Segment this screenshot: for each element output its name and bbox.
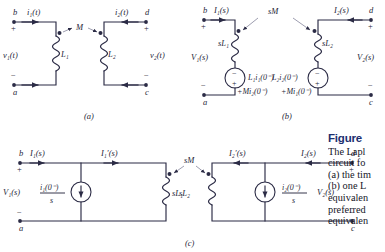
circuit-a-left-top-wire	[14, 22, 56, 36]
circuit-a-sign-minus-left: −	[11, 70, 16, 80]
circuit-c-inductor-sl1	[163, 177, 170, 205]
circuit-b-source-right-label-line2: +Mi₁(0⁻)	[281, 87, 312, 96]
circuit-a-inductor-l2	[101, 36, 108, 71]
circuit-c-label-v1: V₁(s)	[3, 187, 20, 197]
circuit-c-source-left-numerator: i₁(0⁻)	[40, 183, 59, 192]
circuit-c-label-i2: I₂(s)	[300, 148, 316, 158]
caption-line-5: equivalen	[328, 192, 385, 204]
circuit-c-source-right-numerator: i₂(0⁻)	[282, 183, 301, 192]
circuit-c-sign-minus-left: −	[17, 207, 22, 217]
circuit-b-sign-minus-left: −	[201, 80, 206, 90]
circuit-a-label-l2: L₂	[107, 49, 116, 59]
circuit-b-label-v1: V₁(s)	[191, 52, 208, 62]
circuit-c-inductor-sl2	[209, 177, 216, 205]
circuit-b-sign-plus-left: +	[201, 21, 206, 31]
circuit-a-left-bottom-wire	[14, 71, 56, 85]
circuit-b-sign-minus-right: −	[368, 80, 373, 90]
circuit-a-label-v2: v₂(t)	[150, 50, 165, 60]
circuit-b-label-c: c	[369, 97, 373, 107]
circuit-c-dot-left	[168, 172, 172, 176]
circuit-b-right-top-wire	[318, 20, 371, 34]
circuit-c-mutual-arrow-right	[196, 166, 205, 173]
circuit-b-source-left-sign-minus: −	[232, 69, 237, 78]
circuit-c-left-bottom-wire	[20, 205, 166, 221]
circuit-c-label-i1: I₁(s)	[29, 148, 45, 158]
circuit-a-label-a: a	[13, 87, 17, 97]
circuit-b-inductor-sl2	[315, 34, 322, 62]
circuit-a-mutual-arrow-left	[63, 28, 72, 32]
figure-root: b + − a i₁(t) v₁(t) L₁ M L₂ i₂(t) d + − …	[0, 0, 385, 252]
circuit-c-source-right-denominator: s	[292, 196, 295, 205]
circuit-b-label-i2: I₂(s)	[333, 5, 349, 15]
circuit-a-dot-right	[99, 31, 103, 35]
circuit-b-left-bottom-wire	[204, 88, 235, 95]
circuit-b-inductor-sl1	[232, 34, 239, 62]
circuit-a-dot-left	[58, 31, 62, 35]
circuit-a-label-c: c	[145, 87, 149, 97]
circuit-b-label-a: a	[203, 97, 207, 107]
caption-line-7: equivalen	[328, 215, 385, 227]
circuit-c-left-top-wire	[20, 163, 166, 177]
circuit-c-label-sm: sM	[184, 155, 195, 165]
circuit-a-right-top-wire	[104, 22, 146, 36]
circuit-a-label-i2: i₂(t)	[115, 7, 129, 17]
subfigure-label-c: (c)	[185, 238, 195, 248]
circuit-a-right-bottom-wire	[104, 71, 146, 85]
circuit-b-label-sl2: sL₂	[322, 38, 333, 48]
circuit-b-source-left-label-line1: L₁i₁(0⁻)	[247, 73, 274, 82]
circuit-b-source-right-sign-minus: −	[315, 69, 320, 78]
circuit-b-label-sl1: sL₁	[218, 38, 229, 48]
circuit-b	[202, 18, 373, 97]
circuit-a-mutual-arrow-right	[88, 28, 97, 32]
circuit-c-mutual-arrow-left	[174, 166, 184, 173]
circuit-b-right-bottom-wire	[318, 88, 371, 95]
circuit-c-label-i2-prime: I₂′(s)	[228, 148, 246, 158]
subfigure-label-b: (b)	[282, 111, 292, 121]
circuit-b-source-left-label-line2: +Mi₂(0⁻)	[237, 87, 268, 96]
circuit-c-label-a: a	[19, 223, 23, 233]
caption-line-2: circuit fo	[328, 157, 385, 169]
circuit-a-label-d: d	[145, 7, 150, 17]
caption-line-4: (b) one L	[328, 180, 385, 192]
circuit-a-sign-plus-left: +	[11, 23, 16, 33]
caption-line-1: The Lapl	[328, 146, 385, 158]
circuit-b-left-top-wire	[204, 20, 235, 34]
circuit-c-sign-plus-left: +	[17, 164, 22, 174]
figure-caption: Figure The Lapl circuit fo (a) the tim (…	[328, 133, 385, 227]
circuit-c-label-i1-prime: I₁′(s)	[100, 148, 118, 158]
circuit-b-mutual-arrow-left	[243, 18, 258, 30]
circuit-a-label-v1: v₁(t)	[3, 50, 18, 60]
circuit-b-label-d: d	[369, 5, 374, 15]
circuit-a-inductor-l1	[53, 36, 60, 71]
caption-line-3: (a) the tim	[328, 169, 385, 181]
circuit-c-source-left-denominator: s	[50, 196, 53, 205]
circuit-b-label-i1: I₁(s)	[213, 5, 229, 15]
circuit-a-label-b: b	[13, 7, 17, 17]
circuit-c-label-sl2: sL₂	[179, 188, 190, 198]
circuit-b-sign-plus-right: +	[368, 21, 373, 31]
circuit-a-sign-plus-right: +	[144, 23, 149, 33]
circuit-b-dot-left	[237, 29, 241, 33]
subfigure-label-a: (a)	[84, 111, 94, 121]
circuit-a-label-l1: L₁	[60, 49, 69, 59]
circuit-b-source-right-sign-plus: +	[315, 79, 320, 88]
circuit-a-label-m: M	[75, 22, 84, 32]
circuit-a-label-i1: i₁(t)	[27, 7, 41, 17]
circuit-b-label-sm: sM	[268, 6, 279, 16]
circuit-b-dot-right	[313, 29, 317, 33]
circuit-c-label-b: b	[19, 148, 23, 158]
figure-caption-heading: Figure	[328, 133, 385, 145]
circuit-a-sign-minus-right: −	[144, 70, 149, 80]
figure-caption-body: The Lapl circuit fo (a) the tim (b) one …	[328, 146, 385, 227]
circuit-b-mutual-arrow-right	[293, 18, 310, 30]
circuit-b-source-right-label-line1: L₂i₂(0⁻)	[271, 73, 298, 82]
circuit-b-label-b: b	[203, 5, 207, 15]
circuit-c-dot-right	[207, 172, 211, 176]
circuit-b-label-v2: V₂(s)	[357, 52, 374, 62]
caption-line-6: preferred	[328, 204, 385, 216]
